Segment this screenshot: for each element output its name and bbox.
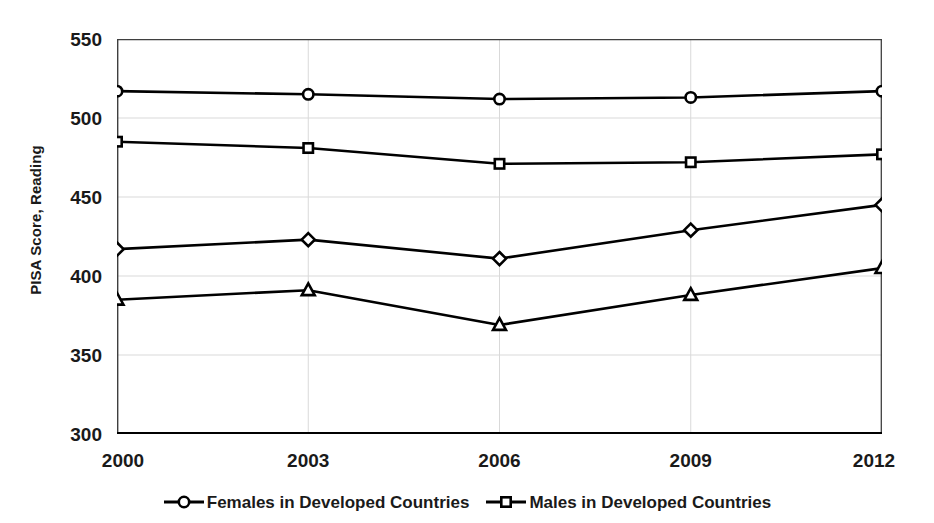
- marker-square-s1-p0: [117, 137, 122, 146]
- marker-circle-s0-p0: [117, 86, 122, 96]
- marker-circle-s0-p3: [686, 92, 696, 102]
- marker-square-s1-p1: [304, 143, 313, 152]
- marker-circle-s0-p1: [303, 89, 313, 99]
- x-axis-tick-label: 2000: [102, 451, 144, 470]
- marker-square-s1-p4: [877, 150, 882, 159]
- legend-entry[interactable]: Females in Developed Countries: [163, 492, 470, 512]
- y-axis-tick-label: 500: [44, 109, 102, 128]
- legend-entry[interactable]: Males in Developed Countries: [485, 492, 771, 512]
- marker-diamond-s2-p4: [875, 198, 882, 211]
- plot-area: [117, 39, 882, 434]
- legend-marker-circle-icon: [163, 492, 205, 512]
- marker-diamond-s2-p2: [493, 252, 506, 265]
- y-axis-tick-labels: 550500450400350300: [44, 0, 102, 523]
- y-axis-tick-label: 300: [44, 425, 102, 444]
- x-axis-tick-label: 2006: [478, 451, 520, 470]
- marker-circle-s0-p4: [877, 86, 882, 96]
- y-axis-tick-label: 550: [44, 30, 102, 49]
- marker-square-s1-p2: [495, 159, 504, 168]
- y-axis-tick-label: 400: [44, 267, 102, 286]
- marker-triangle-s3-p4: [876, 261, 882, 273]
- marker-triangle-s3-p1: [302, 283, 315, 295]
- legend-marker-square-icon: [485, 492, 527, 512]
- chart-legend: Females in Developed CountriesMales in D…: [0, 492, 934, 512]
- legend-label: Males in Developed Countries: [529, 494, 771, 511]
- marker-circle-s0-p2: [494, 94, 504, 104]
- marker-diamond-s2-p0: [117, 243, 124, 256]
- marker-triangle-s3-p2: [493, 318, 506, 330]
- plot-svg: [117, 39, 882, 434]
- marker-circle-legend-0: [179, 497, 189, 507]
- marker-diamond-s2-p1: [302, 233, 315, 246]
- y-axis-tick-label: 350: [44, 346, 102, 365]
- marker-square-legend-1: [502, 497, 511, 506]
- x-axis-tick-label: 2003: [287, 451, 329, 470]
- marker-diamond-s2-p3: [684, 224, 697, 237]
- x-axis-tick-label: 2012: [853, 451, 895, 470]
- x-axis-tick-label: 2009: [670, 451, 712, 470]
- legend-label: Females in Developed Countries: [207, 494, 470, 511]
- marker-square-s1-p3: [686, 158, 695, 167]
- y-axis-tick-label: 450: [44, 188, 102, 207]
- marker-triangle-s3-p3: [684, 288, 697, 300]
- chart-container: PISA Score, Reading 550500450400350300 2…: [0, 0, 934, 523]
